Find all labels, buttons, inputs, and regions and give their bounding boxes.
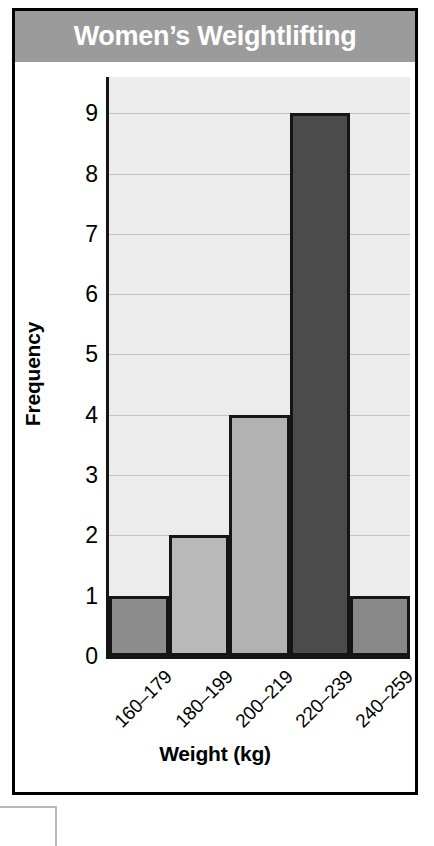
gridline (109, 354, 410, 355)
x-axis-tick-label: 200–219 (231, 666, 297, 732)
bar[interactable] (169, 535, 229, 656)
bar[interactable] (290, 113, 350, 656)
plot-area: 0123456789 (106, 77, 410, 659)
bar[interactable] (350, 596, 410, 656)
x-axis-tick-label: 160–179 (111, 666, 177, 732)
plot-inner: 0123456789 (109, 77, 410, 656)
gridline (109, 113, 410, 114)
bar[interactable] (109, 596, 169, 656)
y-axis-tick-label: 5 (85, 343, 98, 366)
figure-frame: Women’s Weightlifting Frequency 01234567… (12, 8, 418, 795)
y-axis-tick-label: 4 (85, 403, 98, 426)
chart-body: Frequency 0123456789 160–179180–199200–2… (15, 62, 415, 792)
x-axis-tick-label: 220–239 (291, 666, 357, 732)
y-axis-tick-label: 9 (85, 102, 98, 125)
gridline (109, 174, 410, 175)
corner-box-decoration (0, 806, 57, 846)
y-axis-tick-label: 2 (85, 524, 98, 547)
y-axis-tick-label: 1 (85, 584, 98, 607)
chart-title-band: Women’s Weightlifting (15, 11, 415, 62)
y-axis-tick-label: 3 (85, 464, 98, 487)
x-axis-tick-label: 180–199 (171, 666, 237, 732)
y-axis-tick-label: 6 (85, 283, 98, 306)
gridline (109, 234, 410, 235)
gridline (109, 294, 410, 295)
x-axis-title: Weight (kg) (15, 742, 415, 766)
page-title: Women’s Weightlifting (74, 21, 357, 52)
bar[interactable] (229, 415, 289, 656)
y-axis-tick-label: 7 (85, 222, 98, 245)
x-axis-tick-label: 240–259 (351, 666, 417, 732)
y-axis-tick-label: 0 (85, 645, 98, 668)
y-axis-tick-label: 8 (85, 162, 98, 185)
y-axis-title: Frequency (21, 294, 45, 454)
